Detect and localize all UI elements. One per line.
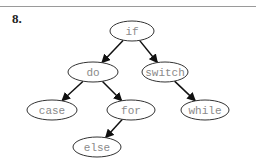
node-label: switch — [145, 67, 185, 79]
tree-node-if: if — [110, 21, 154, 41]
tree-nodes: ifdoswitchcaseforwhileelse — [27, 21, 229, 157]
edge-do-case — [62, 81, 83, 101]
node-label: if — [125, 26, 138, 38]
tree-node-case: case — [27, 100, 77, 120]
edge-if-do — [102, 40, 123, 62]
node-label: case — [39, 105, 65, 117]
tree-edges — [62, 40, 195, 137]
tree-node-for: for — [107, 100, 155, 120]
tree-node-while: while — [181, 100, 229, 120]
edge-if-switch — [140, 40, 158, 62]
tree-node-else: else — [73, 137, 121, 157]
node-label: do — [86, 67, 99, 79]
edge-switch-while — [175, 81, 196, 101]
tree-node-switch: switch — [142, 62, 188, 82]
edge-for-else — [106, 119, 123, 137]
node-label: else — [84, 142, 110, 154]
node-label: for — [121, 105, 141, 117]
edge-do-for — [102, 81, 121, 100]
node-label: while — [188, 105, 221, 117]
binary-tree-diagram: ifdoswitchcaseforwhileelse — [0, 0, 256, 165]
tree-node-do: do — [68, 62, 118, 82]
